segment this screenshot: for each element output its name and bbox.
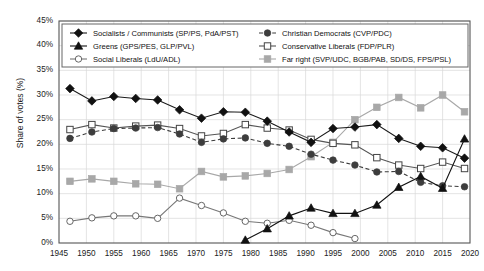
data-point-filled-circle (154, 124, 161, 131)
data-point-filled-circle (374, 169, 381, 176)
data-point-open-square (198, 133, 204, 139)
data-point-open-square (89, 121, 95, 127)
data-point-filled-circle (264, 140, 271, 147)
data-point-filled-square-grey (461, 108, 468, 115)
data-series-layer (66, 84, 469, 243)
legend-item-5: Far right (SVP/UDC, BGB/PAB, SD/DS, FPS/… (259, 55, 452, 64)
data-point-filled-square-grey (286, 166, 293, 173)
data-point-filled-circle (242, 135, 249, 142)
data-point-open-square (264, 43, 270, 49)
data-point-filled-diamond (460, 154, 469, 163)
data-point-filled-square-grey (154, 181, 161, 188)
data-point-filled-square-grey (89, 176, 96, 183)
legend-label: Far right (SVP/UDC, BGB/PAB, SD/DS, FPS/… (282, 55, 452, 64)
data-point-filled-circle (417, 179, 424, 186)
data-point-filled-triangle (460, 135, 468, 142)
data-point-filled-diamond (219, 107, 228, 116)
legend-label: Conservative Liberals (FDP/PLR) (282, 42, 395, 51)
data-point-filled-circle (395, 168, 402, 175)
legend-label: Greens (GPS/PES, GLP/PVL) (93, 42, 195, 51)
legend-item-0: Socialists / Communists (SP/PS, PdA/PST) (70, 29, 239, 38)
data-point-open-circle (242, 218, 248, 224)
data-point-filled-square-grey (374, 104, 381, 111)
data-point-filled-circle (132, 125, 139, 132)
data-point-filled-square-grey (220, 174, 227, 181)
data-point-filled-square-grey (395, 94, 402, 101)
data-point-filled-diamond (88, 97, 97, 106)
data-point-filled-circle (198, 139, 205, 146)
data-point-open-circle (154, 215, 160, 221)
data-point-filled-diamond (66, 84, 75, 93)
data-point-filled-diamond (175, 106, 184, 115)
data-point-filled-square-grey (132, 181, 139, 188)
data-point-filled-circle (67, 135, 74, 142)
data-point-filled-circle (308, 151, 315, 158)
data-point-open-circle (198, 202, 204, 208)
data-point-open-square (461, 165, 467, 171)
data-point-open-square (396, 162, 402, 168)
data-point-filled-circle (176, 131, 183, 138)
data-point-filled-diamond (438, 143, 447, 152)
chart-legend: Socialists / Communists (SP/PS, PdA/PST)… (62, 24, 468, 67)
data-point-filled-circle (286, 143, 293, 150)
data-point-filled-square-grey (352, 116, 359, 123)
data-point-filled-square-grey (198, 168, 205, 175)
legend-label: Social Liberals (LdU/ADL) (93, 55, 181, 64)
data-point-filled-square-grey (264, 56, 271, 63)
data-point-filled-circle (111, 125, 118, 132)
series-0 (66, 84, 469, 162)
data-point-filled-triangle (241, 236, 249, 243)
data-point-open-circle (308, 222, 314, 228)
data-point-open-circle (176, 195, 182, 201)
series-2 (241, 135, 469, 244)
data-point-filled-circle (461, 183, 468, 190)
data-point-filled-diamond (351, 123, 360, 132)
data-point-filled-diamond (131, 94, 140, 103)
data-point-filled-triangle (395, 183, 403, 190)
data-point-filled-square-grey (264, 170, 271, 177)
data-point-filled-triangle (263, 224, 271, 231)
data-point-filled-diamond (373, 120, 382, 129)
legend-label: Socialists / Communists (SP/PS, PdA/PST) (93, 29, 239, 38)
data-point-filled-circle (352, 162, 359, 169)
data-point-filled-diamond (241, 108, 250, 117)
data-point-open-circle (89, 215, 95, 221)
data-point-open-circle (67, 218, 73, 224)
data-point-filled-square-grey (439, 92, 446, 99)
data-point-open-circle (111, 213, 117, 219)
data-point-filled-circle (330, 157, 337, 164)
data-point-open-square (439, 159, 445, 165)
series-1 (67, 124, 468, 190)
data-point-open-square (352, 142, 358, 148)
data-point-filled-square-grey (242, 173, 249, 180)
data-point-filled-square-grey (111, 178, 118, 185)
data-point-filled-diamond (153, 96, 162, 105)
data-point-filled-circle (89, 129, 96, 136)
data-point-filled-circle (264, 30, 271, 37)
data-point-open-square (417, 165, 423, 171)
data-point-open-square (374, 154, 380, 160)
data-point-open-circle (220, 210, 226, 216)
data-point-filled-square-grey (67, 178, 74, 185)
data-point-filled-diamond (329, 124, 338, 133)
data-point-filled-diamond (263, 117, 272, 126)
data-point-open-square (330, 140, 336, 146)
data-point-open-square (67, 126, 73, 132)
data-point-filled-circle (220, 136, 227, 143)
data-point-filled-square-grey (176, 185, 183, 192)
data-point-open-circle (133, 213, 139, 219)
data-point-filled-triangle (416, 172, 424, 179)
data-point-filled-diamond (197, 114, 206, 123)
data-point-filled-diamond (416, 142, 425, 151)
data-point-filled-diamond (110, 92, 119, 101)
data-point-open-square (242, 121, 248, 127)
data-point-open-circle (330, 229, 336, 235)
legend-label: Christian Democrats (CVP/PDC) (282, 29, 392, 38)
data-point-open-circle (75, 56, 81, 62)
data-point-open-circle (352, 235, 358, 241)
data-point-filled-diamond (394, 134, 403, 143)
data-point-filled-square-grey (417, 105, 424, 112)
data-point-filled-triangle (307, 204, 315, 211)
